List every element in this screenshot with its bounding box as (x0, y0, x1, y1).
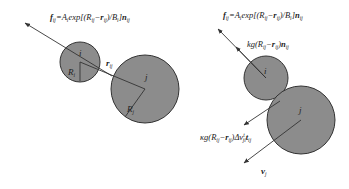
circle-j-label: j (144, 72, 148, 82)
distance-label: rij (106, 58, 113, 69)
right-panel: fij=Aiexp[(Rij−rij)/Bi]nij kg(Rij−rij)ni… (200, 10, 335, 177)
friction-force-label: κg(Rij−rij)Δvtjitij (200, 132, 252, 143)
body-force-label: kg(Rij−rij)nij (247, 39, 289, 50)
velocity-label: vj (261, 166, 267, 177)
social-force-diagram: fij=Aiexp[(Rij−rij)/Bi]nij i j Ri Rj rij… (0, 0, 349, 189)
formula-f: fij=Aiexp[(Rij−rij)/Bi]nij (50, 12, 130, 23)
formula-f: fij=Aiexp[(Rij−rij)/Bi]nij (223, 10, 303, 21)
circle-j-label: j (298, 105, 302, 115)
left-panel: fij=Aiexp[(Rij−rij)/Bi]nij i j Ri Rj rij (25, 12, 179, 123)
